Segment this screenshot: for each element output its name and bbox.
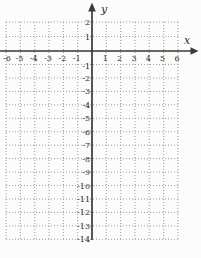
- graph-figure: -6-5-4-3-2-112345621-1-2-3-4-5-6-7-8-9-1…: [0, 0, 201, 258]
- x-tick-label: 5: [160, 54, 165, 63]
- y-tick-label: -12: [77, 208, 90, 217]
- y-tick-label: 2: [85, 18, 90, 27]
- y-tick-label: -14: [77, 235, 90, 244]
- x-tick-label: 4: [146, 54, 151, 63]
- y-tick-label: -4: [82, 101, 90, 110]
- y-tick-label: -3: [82, 87, 90, 96]
- y-tick-label: -9: [82, 168, 90, 177]
- x-tick-label: -3: [44, 54, 52, 63]
- y-tick-label: -5: [82, 114, 90, 123]
- coordinate-plane: -6-5-4-3-2-112345621-1-2-3-4-5-6-7-8-9-1…: [0, 0, 201, 258]
- y-tick-label: -2: [82, 74, 90, 83]
- x-tick-label: 3: [131, 54, 136, 63]
- x-tick-label: 2: [117, 54, 122, 63]
- x-tick-label: -1: [73, 54, 81, 63]
- y-tick-label: -11: [77, 195, 90, 204]
- y-tick-label: -10: [77, 182, 90, 191]
- y-tick-label: -7: [82, 141, 90, 150]
- axis-layer: [0, 3, 199, 241]
- x-axis-arrowhead: [191, 47, 199, 55]
- x-tick-label: -6: [3, 54, 11, 63]
- x-tick-label: 1: [103, 54, 108, 63]
- y-axis-arrowhead: [88, 3, 96, 12]
- y-axis-label: y: [100, 3, 108, 16]
- y-tick-label: -13: [77, 222, 90, 231]
- x-tick-label: -2: [58, 54, 66, 63]
- x-axis-label: x: [184, 34, 191, 47]
- x-tick-label: -4: [30, 54, 38, 63]
- x-tick-label: -5: [15, 54, 23, 63]
- y-tick-label: -6: [82, 128, 90, 137]
- y-tick-label: -1: [82, 62, 90, 71]
- y-tick-label: 1: [85, 33, 90, 42]
- x-tick-label: 6: [174, 54, 179, 63]
- y-tick-label: -8: [82, 155, 90, 164]
